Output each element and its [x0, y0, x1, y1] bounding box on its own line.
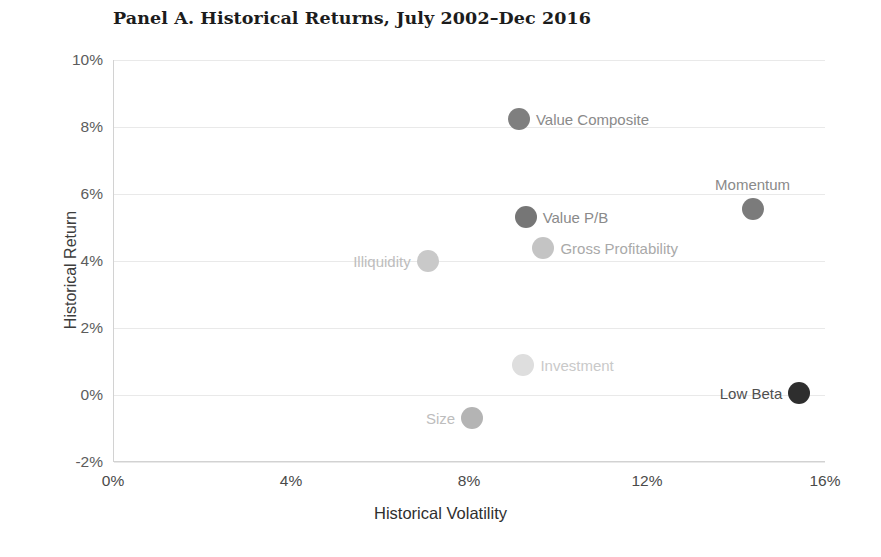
plot-area: Value CompositeMomentumValue P/BGross Pr…	[113, 60, 825, 462]
gridline	[114, 127, 825, 128]
gridline	[114, 395, 825, 396]
x-axis-tick-label: 8%	[458, 472, 480, 490]
data-point-label: Momentum	[715, 176, 790, 193]
data-point-label: Illiquidity	[353, 253, 411, 270]
data-point[interactable]	[508, 108, 530, 130]
chart-title: Panel A. Historical Returns, July 2002–D…	[113, 8, 591, 28]
gridline	[114, 194, 825, 195]
data-point[interactable]	[512, 354, 534, 376]
y-axis-tick-label: -2%	[75, 453, 103, 471]
data-point-label: Size	[426, 410, 455, 427]
data-point-label: Gross Profitability	[560, 239, 678, 256]
gridline	[114, 328, 825, 329]
x-axis-tick-label: 16%	[809, 472, 840, 490]
data-point-label: Low Beta	[720, 385, 783, 402]
x-axis-tick-label: 0%	[102, 472, 124, 490]
y-axis-title: Historical Return	[62, 211, 80, 329]
y-axis-tick-label: 10%	[72, 51, 103, 69]
data-point[interactable]	[417, 250, 439, 272]
data-point[interactable]	[742, 198, 764, 220]
y-axis-tick-label: 6%	[81, 185, 103, 203]
x-axis-tick-labels: 0%4%8%12%16%	[113, 472, 825, 496]
scatter-chart: Panel A. Historical Returns, July 2002–D…	[0, 0, 881, 557]
x-axis-title: Historical Volatility	[0, 504, 881, 523]
x-axis-tick-label: 12%	[631, 472, 662, 490]
data-point-label: Value Composite	[536, 110, 649, 127]
x-axis-tick-label: 4%	[280, 472, 302, 490]
data-point[interactable]	[515, 206, 537, 228]
data-point[interactable]	[788, 382, 810, 404]
data-point[interactable]	[532, 237, 554, 259]
y-axis-tick-label: 0%	[81, 386, 103, 404]
gridline	[114, 60, 825, 61]
y-axis-tick-label: 2%	[81, 319, 103, 337]
y-axis-tick-label: 4%	[81, 252, 103, 270]
gridline	[114, 462, 825, 463]
data-point[interactable]	[461, 407, 483, 429]
data-point-label: Value P/B	[543, 209, 609, 226]
data-point-label: Investment	[540, 356, 613, 373]
gridline	[114, 261, 825, 262]
y-axis-tick-label: 8%	[81, 118, 103, 136]
y-axis-tick-labels: 10%8%6%4%2%0%-2%	[0, 60, 103, 462]
